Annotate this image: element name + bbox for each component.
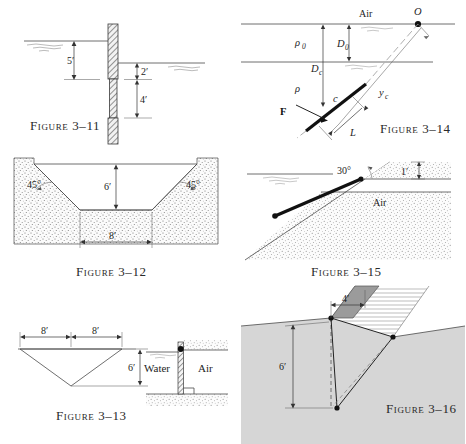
dimension-6ft-13: 6′ (128, 350, 142, 386)
wall-upper-segment (108, 24, 118, 79)
water-symbol-left (27, 44, 63, 51)
figure-3-14-caption: Figure 3–14 (380, 121, 451, 137)
label-air-15: Air (373, 197, 387, 208)
corner-dot-bottom (334, 405, 339, 410)
dimension-Dc: D c (310, 25, 325, 108)
label-bottom-8ft: 8′ (109, 230, 116, 241)
water-symbol-right (168, 66, 200, 71)
label-angle-30: 30° (337, 165, 351, 176)
caption-text-3-14: Figure 3–14 (380, 121, 451, 136)
label-8ft-left: 8′ (41, 325, 48, 336)
label-D0: D (336, 38, 345, 49)
label-8ft-right: 8′ (92, 325, 99, 336)
label-depth-6ft-13: 6′ (128, 362, 135, 373)
force-arrow: F (280, 105, 328, 123)
label-D0-sub: 0 (345, 43, 349, 52)
dimension-2ft: 2′ (124, 63, 152, 80)
figure-3-16-drawing: 4′ 6′ (233, 296, 466, 444)
plate-extension-dashed (366, 24, 418, 84)
figure-3-15: 30° 1′ Air Figure 3–15 (233, 148, 466, 296)
wall-lower-segment (108, 118, 118, 144)
label-yc-sub: c (385, 92, 389, 101)
label-5ft: 5′ (67, 55, 74, 66)
label-height-1ft: 1′ (401, 166, 408, 177)
figure-page: 5′ 2′ 4′ Figure 3–11 (0, 0, 466, 444)
inclined-plate (306, 84, 366, 131)
figure-3-16-caption: Figure 3–16 (386, 401, 457, 417)
figure-3-13: 8′ 8′ 6′ (0, 296, 233, 444)
caption-text-3-11: Figure 3–11 (30, 118, 100, 133)
dimension-8ft-right: 8′ (71, 325, 122, 347)
lower-ground-mass (245, 192, 451, 260)
gate-lower-hinge (272, 213, 278, 219)
figure-3-11-caption: Figure 3–11 (30, 118, 100, 134)
water-symbol-top (361, 27, 393, 31)
label-air-13: Air (198, 362, 213, 374)
figure-3-16: 4′ 6′ Figure 3–16 (233, 296, 466, 444)
triangular-gate (20, 349, 122, 386)
figure-3-15-caption: Figure 3–15 (311, 264, 382, 280)
label-4ft: 4′ (140, 94, 147, 105)
dimension-4ft: 4′ (124, 80, 152, 118)
water-symbol (263, 177, 299, 184)
caption-text-3-15: Figure 3–15 (311, 264, 382, 279)
label-angle-right: 45° (186, 179, 200, 190)
label-rho: ρ (294, 83, 300, 94)
side-water-symbol (150, 354, 176, 358)
plate-extension-lower-dashed (297, 131, 306, 138)
label-origin: O (414, 6, 422, 17)
label-depth-6ft: 6′ (104, 181, 111, 192)
label-L: L (349, 127, 356, 138)
dimension-6ft: 6′ (104, 165, 118, 210)
dimension-D0: D 0 (336, 25, 351, 62)
label-width-4ft: 4′ (342, 293, 349, 304)
label-Dc: D (310, 63, 319, 74)
label-rho0-sub: 0 (302, 42, 306, 51)
label-depth-6ft-16: 6′ (279, 361, 286, 372)
corner-dot-top-right (390, 334, 395, 339)
dimension-8ft-left: 8′ (20, 325, 71, 347)
label-2ft: 2′ (141, 66, 148, 77)
water-symbol-mid (345, 65, 377, 69)
figure-3-12: 45° 45° 6′ 8′ Figure 3–12 (0, 148, 233, 296)
caption-text-3-12: Figure 3–12 (76, 264, 147, 279)
ground-mass-16 (241, 318, 465, 444)
figure-3-12-caption: Figure 3–12 (76, 264, 147, 280)
side-ground-top (183, 340, 228, 350)
caption-text-3-16: Figure 3–16 (386, 401, 457, 416)
dimension-5ft: 5′ (64, 41, 100, 80)
gate-upper-hinge (358, 176, 363, 181)
label-yc: y (378, 87, 384, 98)
label-Dc-sub: c (319, 68, 323, 77)
label-air: Air (359, 8, 373, 19)
wall-top-hinge (178, 346, 184, 352)
figure-3-14: y c ρ 0 ρ Air O D 0 (233, 0, 466, 148)
label-centroid: c (333, 93, 338, 104)
figure-3-11: 5′ 2′ 4′ Figure 3–11 (0, 0, 233, 148)
figure-3-13-caption: Figure 3–13 (56, 408, 127, 424)
label-water: Water (144, 362, 170, 374)
label-rho0: ρ (294, 37, 300, 48)
label-force-F: F (280, 106, 286, 117)
wall-footing (184, 388, 194, 394)
caption-text-3-13: Figure 3–13 (56, 408, 127, 423)
label-angle-left: 45° (27, 179, 41, 190)
wall-gate-segment (110, 79, 118, 118)
side-ground-bottom (146, 394, 228, 406)
